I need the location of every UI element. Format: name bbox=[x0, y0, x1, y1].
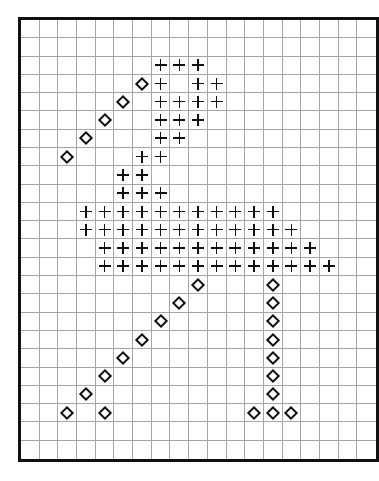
grid-cell bbox=[170, 239, 189, 257]
plus-icon bbox=[229, 224, 241, 236]
diamond-icon bbox=[191, 278, 205, 292]
plus-icon bbox=[80, 224, 92, 236]
plus-icon bbox=[173, 59, 185, 71]
grid-cell bbox=[114, 422, 133, 440]
diamond-icon bbox=[154, 314, 168, 328]
grid-cell bbox=[301, 93, 320, 111]
grid-cell bbox=[189, 441, 208, 459]
grid-cell bbox=[283, 75, 302, 93]
grid-cell bbox=[114, 313, 133, 331]
grid-cell bbox=[320, 441, 339, 459]
grid-cell bbox=[58, 130, 77, 148]
grid-cell bbox=[77, 38, 96, 56]
grid-cell bbox=[133, 148, 152, 166]
grid-cell bbox=[264, 386, 283, 404]
grid-cell bbox=[114, 38, 133, 56]
plus-icon bbox=[211, 96, 223, 108]
grid-cell bbox=[58, 148, 77, 166]
grid-cell bbox=[208, 221, 227, 239]
grid-cell bbox=[227, 221, 246, 239]
grid-cell bbox=[208, 185, 227, 203]
grid-cell bbox=[114, 349, 133, 367]
grid-cell bbox=[320, 203, 339, 221]
grid-cell bbox=[77, 130, 96, 148]
grid-cell bbox=[245, 276, 264, 294]
grid-cell bbox=[58, 221, 77, 239]
grid-cell bbox=[245, 239, 264, 257]
diamond-icon bbox=[116, 351, 130, 365]
grid-cell bbox=[96, 203, 115, 221]
grid-cell bbox=[264, 111, 283, 129]
plus-icon bbox=[117, 187, 129, 199]
plus-icon bbox=[192, 59, 204, 71]
plus-icon bbox=[155, 206, 167, 218]
grid-cell bbox=[357, 203, 376, 221]
plus-icon bbox=[155, 59, 167, 71]
grid-cell bbox=[133, 331, 152, 349]
grid-cell bbox=[357, 130, 376, 148]
grid-cell bbox=[264, 203, 283, 221]
grid-cell bbox=[170, 75, 189, 93]
grid-cell bbox=[245, 57, 264, 75]
grid-cell bbox=[58, 404, 77, 422]
grid-cell bbox=[264, 349, 283, 367]
grid-cell bbox=[96, 331, 115, 349]
grid-cell bbox=[227, 331, 246, 349]
grid-cell bbox=[40, 276, 59, 294]
grid-cell bbox=[227, 185, 246, 203]
grid-cell bbox=[357, 111, 376, 129]
grid-cell bbox=[170, 130, 189, 148]
grid-cell bbox=[264, 75, 283, 93]
grid-cell bbox=[227, 276, 246, 294]
grid-cell bbox=[152, 349, 171, 367]
grid-cell bbox=[170, 166, 189, 184]
diamond-icon bbox=[172, 296, 186, 310]
grid-cell bbox=[133, 38, 152, 56]
grid-cell bbox=[208, 166, 227, 184]
grid-cell bbox=[189, 130, 208, 148]
grid-cell bbox=[208, 404, 227, 422]
grid-cell bbox=[21, 166, 40, 184]
grid-cell bbox=[339, 221, 358, 239]
grid-cell bbox=[21, 258, 40, 276]
grid-cell bbox=[77, 349, 96, 367]
grid-cell bbox=[283, 111, 302, 129]
grid-cell bbox=[264, 166, 283, 184]
grid-cell bbox=[339, 294, 358, 312]
grid-cell bbox=[264, 185, 283, 203]
grid-cell bbox=[40, 111, 59, 129]
grid-cell bbox=[133, 441, 152, 459]
grid-cell bbox=[170, 313, 189, 331]
grid-cell bbox=[189, 386, 208, 404]
grid-cell bbox=[152, 386, 171, 404]
plus-icon bbox=[136, 169, 148, 181]
grid-cell bbox=[245, 111, 264, 129]
plus-icon bbox=[192, 260, 204, 272]
grid-cell bbox=[283, 441, 302, 459]
grid-cell bbox=[170, 368, 189, 386]
grid-cell bbox=[40, 258, 59, 276]
grid-cell bbox=[40, 57, 59, 75]
plus-icon bbox=[192, 242, 204, 254]
grid-cell bbox=[227, 258, 246, 276]
grid-cell bbox=[189, 276, 208, 294]
grid-cell bbox=[283, 166, 302, 184]
grid-cell bbox=[339, 239, 358, 257]
grid-cell bbox=[283, 20, 302, 38]
grid-cell bbox=[227, 75, 246, 93]
grid-cell bbox=[114, 386, 133, 404]
grid-cell bbox=[96, 313, 115, 331]
grid-cell bbox=[152, 166, 171, 184]
grid-cell bbox=[133, 185, 152, 203]
plus-icon bbox=[173, 206, 185, 218]
grid-cell bbox=[339, 313, 358, 331]
grid-cell bbox=[245, 368, 264, 386]
diamond-icon bbox=[284, 406, 298, 420]
plus-icon bbox=[80, 206, 92, 218]
grid-cell bbox=[357, 441, 376, 459]
diamond-icon bbox=[266, 406, 280, 420]
grid-cell bbox=[320, 422, 339, 440]
plus-icon bbox=[248, 224, 260, 236]
grid-cell bbox=[283, 148, 302, 166]
grid-cell bbox=[339, 203, 358, 221]
